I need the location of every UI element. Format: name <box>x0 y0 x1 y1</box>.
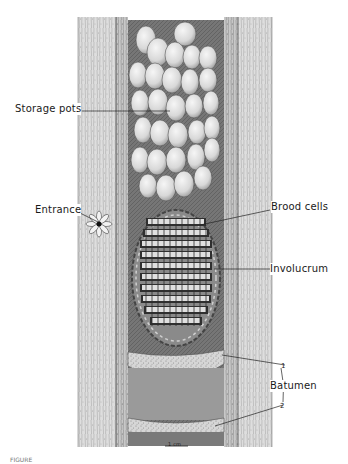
scale-bar-label: 1 cm <box>168 438 181 450</box>
label-involucrum: Involucrum <box>270 263 328 275</box>
brood-chamber <box>132 210 220 346</box>
figure-caption: FIGURE <box>10 456 32 463</box>
batumen <box>128 350 224 446</box>
nest-diagram <box>0 0 348 464</box>
label-batumen-1: 1 <box>281 360 286 372</box>
label-storage-pots: Storage pots <box>15 103 81 115</box>
label-entrance: Entrance <box>35 204 81 216</box>
entrance-rosette <box>86 211 112 237</box>
label-brood-cells: Brood cells <box>271 201 328 213</box>
label-batumen-2: 2 <box>280 400 285 412</box>
label-batumen: Batumen <box>270 380 317 392</box>
